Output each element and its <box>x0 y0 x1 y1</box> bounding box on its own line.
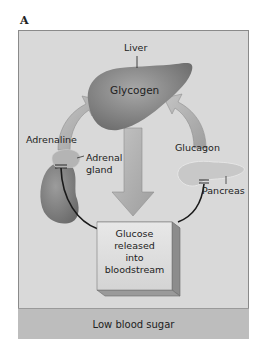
adrenal-gland-organ <box>40 149 84 223</box>
process-line-3: into <box>97 252 172 264</box>
condition-band: Low blood sugar <box>18 308 249 339</box>
glucagon-label: Glucagon <box>175 142 220 153</box>
adrenal-label-line1: Adrenal <box>86 152 122 163</box>
pancreas-label: Pancreas <box>202 185 245 196</box>
feedback-line-right <box>178 184 204 222</box>
process-line-1: Glucose <box>97 228 172 240</box>
down-arrow-icon <box>112 128 154 216</box>
adrenal-label-line2: gland <box>86 164 113 175</box>
glycogen-label: Glycogen <box>110 85 159 96</box>
condition-label: Low blood sugar <box>93 319 175 330</box>
liver-label: Liver <box>124 42 147 53</box>
pancreas-organ <box>178 161 245 186</box>
glucagon-arrow-icon <box>164 94 206 148</box>
process-box-text: Glucose released into bloodstream <box>97 228 172 276</box>
adrenaline-label: Adrenaline <box>26 134 77 145</box>
process-line-2: released <box>97 240 172 252</box>
process-line-4: bloodstream <box>97 264 172 276</box>
